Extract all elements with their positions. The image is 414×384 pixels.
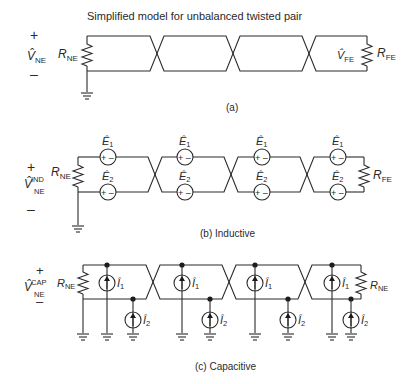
svg-text:Î2: Î2 (298, 314, 305, 328)
panel-a: Simplified model for unbalanced twisted … (27, 10, 396, 113)
svg-text:Î2: Î2 (220, 314, 227, 328)
voltage-source-e2: + – Ê2 (177, 170, 193, 200)
v-ne-label: V̂NE (27, 48, 46, 65)
svg-text:+ –: + – (178, 153, 191, 163)
current-source-i2: Î2 (280, 296, 305, 340)
svg-text:Ê2: Ê2 (179, 170, 191, 184)
voltage-source-e2: + – Ê2 (100, 170, 116, 200)
resistor-ne (73, 163, 83, 187)
resistor-ne (82, 42, 92, 66)
minus-sign: – (27, 201, 35, 217)
voltage-source-e2: + – Ê2 (330, 170, 346, 200)
svg-text:Î1: Î1 (342, 277, 349, 291)
plus-sign: + (36, 263, 44, 278)
minus-sign: – (30, 66, 38, 82)
svg-text:Î1: Î1 (192, 277, 199, 291)
current-source-i1: Î1 (99, 262, 124, 340)
svg-text:+ –: + – (331, 153, 344, 163)
svg-text:Ê2: Ê2 (102, 170, 114, 184)
svg-text:+ –: + – (101, 188, 114, 198)
svg-text:Î1: Î1 (117, 277, 124, 291)
resistor-fe (359, 163, 369, 187)
svg-text:Î1: Î1 (265, 277, 272, 291)
r-fe-label: RFE (377, 46, 396, 62)
caption-a: (a) (226, 102, 238, 113)
svg-text:Ê2: Ê2 (256, 170, 268, 184)
current-source-i1: Î1 (247, 262, 272, 340)
plus-sign: + (30, 27, 38, 43)
current-source-i2: Î2 (202, 296, 227, 340)
v-ne-ind-sub: NE (34, 187, 44, 196)
voltage-source-e1: + – Ê1 (100, 135, 116, 165)
svg-text:+ –: + – (331, 188, 344, 198)
svg-text:Î2: Î2 (361, 314, 368, 328)
svg-text:Ê1: Ê1 (179, 135, 191, 149)
voltage-source-e1: + – Ê1 (254, 135, 270, 165)
ground-icon (72, 226, 84, 232)
r-ne-label: RNE (58, 47, 78, 63)
voltage-source-e1: + – Ê1 (177, 135, 193, 165)
r-far-label: RNE (370, 279, 388, 293)
svg-text:+ –: + – (255, 153, 268, 163)
panel-b: + V̂IND NE – RNE RFE + – Ê1 + – Ê2 (24, 135, 392, 239)
diagram-title: Simplified model for unbalanced twisted … (87, 10, 303, 22)
current-source-i2: Î2 (125, 296, 150, 340)
svg-text:Î2: Î2 (143, 314, 150, 328)
resistor-fe (362, 42, 372, 66)
svg-text:+ –: + – (255, 188, 268, 198)
svg-text:+ –: + – (101, 153, 114, 163)
panel-c: + V̂CAP NE – RNE RNE Î1 (24, 262, 388, 372)
svg-text:+ –: + – (178, 188, 191, 198)
voltage-source-e1: + – Ê1 (330, 135, 346, 165)
plus-sign: + (27, 159, 35, 175)
current-source-i2: Î2 (343, 296, 368, 340)
r-ne-label: RNE (57, 277, 75, 291)
svg-text:Ê1: Ê1 (332, 135, 344, 149)
resistor-ne (78, 270, 88, 294)
voltage-source-e2: + – Ê2 (254, 170, 270, 200)
svg-text:Ê1: Ê1 (102, 135, 114, 149)
ground-icon (77, 334, 89, 340)
caption-c: (c) Capacitive (195, 361, 257, 372)
ground-icon (81, 93, 93, 99)
current-source-i1: Î1 (324, 262, 349, 340)
resistor-far (356, 270, 366, 294)
svg-text:Ê1: Ê1 (256, 135, 268, 149)
caption-b: (b) Inductive (200, 228, 255, 239)
r-ne-label: RNE (51, 165, 71, 181)
svg-text:Ê2: Ê2 (332, 170, 344, 184)
current-source-i1: Î1 (174, 262, 199, 340)
r-fe-label: RFE (373, 168, 392, 184)
v-fe-label: V̂FE (337, 48, 354, 64)
minus-sign: – (36, 294, 44, 309)
twisted-pair-diagram: Simplified model for unbalanced twisted … (0, 0, 414, 384)
